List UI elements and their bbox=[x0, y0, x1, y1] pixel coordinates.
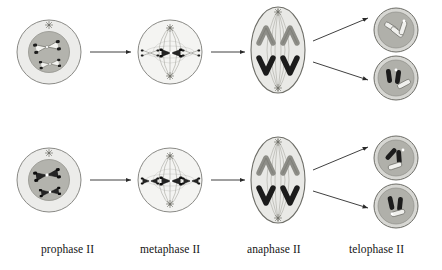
arrow-anaphase-to-telophase-top-2 bbox=[313, 62, 368, 80]
arrow-anaphase-to-telophase-bot-1 bbox=[313, 147, 368, 170]
telophase-ii-daughter-cell-4 bbox=[374, 184, 418, 228]
meiosis-ii-figure bbox=[0, 0, 442, 270]
diagram-canvas: prophase II metaphase II anaphase II tel… bbox=[0, 0, 442, 270]
prophase-ii-cell-top bbox=[17, 20, 81, 84]
metaphase-ii-cell-top bbox=[138, 20, 202, 84]
stage-label-telophase-ii: telophase II bbox=[349, 243, 404, 255]
anaphase-ii-cell-bottom bbox=[251, 137, 305, 223]
metaphase-ii-cell-bottom bbox=[138, 148, 202, 212]
telophase-ii-daughter-cell-3 bbox=[374, 136, 418, 180]
stage-label-prophase-ii: prophase II bbox=[41, 243, 94, 255]
arrow-anaphase-to-telophase-bot-2 bbox=[313, 191, 368, 208]
arrow-group bbox=[90, 18, 368, 208]
prophase-ii-cell-bottom bbox=[17, 148, 81, 212]
telophase-ii-daughter-cell-2 bbox=[374, 56, 418, 100]
stage-label-metaphase-ii: metaphase II bbox=[140, 243, 200, 255]
arrow-anaphase-to-telophase-top-1 bbox=[313, 18, 368, 41]
stage-label-anaphase-ii: anaphase II bbox=[247, 243, 301, 255]
telophase-ii-daughter-cell-1 bbox=[374, 8, 418, 52]
anaphase-ii-cell-top bbox=[251, 7, 305, 93]
